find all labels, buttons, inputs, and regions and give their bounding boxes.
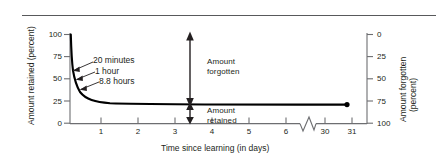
left-tick-label-75: 75 [40,52,62,61]
x-tick-label-30: 30 [315,127,335,136]
chart-plot-area [0,0,436,162]
amount-forgotten-label-line1: Amount [207,57,235,67]
x-tick-label-31: 31 [342,127,362,136]
amount-forgotten-label-line2: forgotten [207,67,239,77]
callout-label-8-8-hours: 8.8 hours [99,76,134,86]
right-tick-label-75: 75 [377,97,386,106]
amount-retained-label-line2: retained [207,116,237,126]
right-tick-label-25: 25 [377,52,386,61]
axis-break-zigzag [300,117,316,131]
x-tick-label-4: 4 [202,127,222,136]
right-tick-label-100: 100 [377,119,390,128]
x-tick-label-2: 2 [128,127,148,136]
x-tick-label-5: 5 [239,127,259,136]
curve-endpoint-marker [344,102,349,107]
x-tick-label-3: 3 [165,127,185,136]
callout-label-1-hour: 1 hour [95,66,119,76]
y-axis-title-right-line1: Amount forgotten [398,57,408,122]
y-axis-title-right-line2: (percent) [408,78,418,112]
y-axis-title-left: Amount retained (percent) [26,26,36,125]
arrowhead-8-8-hours [80,86,87,91]
forgotten-arrowhead-top [186,32,194,41]
right-tick-label-50: 50 [377,74,386,83]
amount-retained-label-line1: Amount [207,106,235,116]
forgetting-curve-figure: 100 75 50 25 0 0 25 50 75 100 1 2 3 4 5 … [0,0,436,162]
left-tick-label-50: 50 [40,74,62,83]
x-axis-title: Time since learning (in days) [161,143,269,153]
left-tick-label-25: 25 [40,97,62,106]
x-tick-label-6: 6 [276,127,296,136]
arrowhead-1-hour [76,76,83,81]
callout-label-20-minutes: 20 minutes [93,55,135,65]
x-tick-label-1: 1 [91,127,111,136]
left-tick-label-100: 100 [40,30,62,39]
right-tick-label-0: 0 [377,30,381,39]
left-tick-label-0: 0 [40,119,62,128]
